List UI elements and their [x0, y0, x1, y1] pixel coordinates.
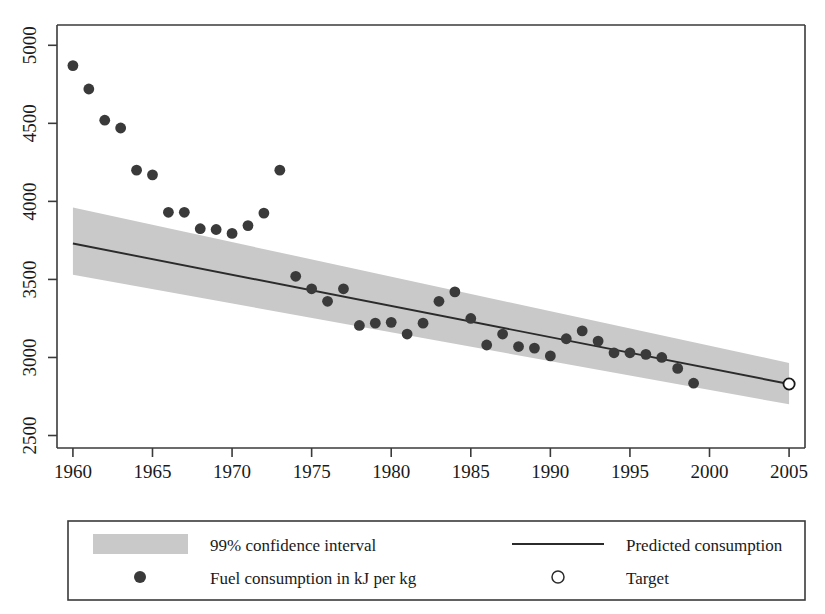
x-tick-label: 2005: [770, 461, 808, 482]
x-tick-label: 1960: [54, 461, 92, 482]
x-tick-label: 1975: [293, 461, 331, 482]
data-point: [481, 340, 492, 351]
data-point: [115, 123, 126, 134]
data-point: [338, 283, 349, 294]
data-point: [402, 329, 413, 340]
x-tick-label: 1970: [213, 461, 251, 482]
data-point: [640, 349, 651, 360]
data-point: [625, 347, 636, 358]
data-point: [386, 317, 397, 328]
data-point: [179, 207, 190, 218]
data-point: [418, 318, 429, 329]
x-tick-label: 1990: [531, 461, 569, 482]
target-marker: [783, 378, 794, 389]
data-point: [497, 329, 508, 340]
data-point: [577, 326, 588, 337]
x-tick-label: 2000: [691, 461, 729, 482]
data-point: [243, 220, 254, 231]
y-tick-label: 3000: [20, 338, 41, 376]
data-point: [354, 320, 365, 331]
data-point: [147, 169, 158, 180]
data-point: [370, 318, 381, 329]
data-point: [211, 224, 222, 235]
data-point: [99, 115, 110, 126]
legend-label-target: Target: [626, 569, 669, 588]
data-point: [449, 287, 460, 298]
data-point: [656, 352, 667, 363]
legend-label-fuel-consumption: Fuel consumption in kJ per kg: [210, 569, 417, 588]
y-tick-label: 4500: [20, 104, 41, 142]
data-point: [131, 165, 142, 176]
data-point: [465, 313, 476, 324]
x-tick-label: 1985: [452, 461, 490, 482]
data-point: [434, 296, 445, 307]
y-tick-label: 4000: [20, 182, 41, 220]
data-point: [274, 165, 285, 176]
chart-legend: 99% confidence interval Predicted consum…: [68, 521, 805, 600]
data-point: [593, 336, 604, 347]
y-tick-label: 5000: [20, 26, 41, 64]
data-point: [529, 343, 540, 354]
legend-border: [68, 521, 805, 600]
data-point: [513, 341, 524, 352]
data-point: [306, 283, 317, 294]
x-tick-label: 1980: [372, 461, 410, 482]
data-point: [258, 208, 269, 219]
data-point: [83, 84, 94, 95]
x-tick-label: 1965: [133, 461, 171, 482]
target-point: [783, 378, 794, 389]
data-point: [561, 333, 572, 344]
data-point: [688, 378, 699, 389]
data-point: [672, 363, 683, 374]
legend-label-confidence-interval: 99% confidence interval: [210, 536, 376, 555]
data-point: [609, 347, 620, 358]
data-point: [195, 223, 206, 234]
legend-label-predicted-consumption: Predicted consumption: [626, 536, 783, 555]
data-point: [227, 228, 238, 239]
band-swatch: [93, 534, 188, 554]
fuel-consumption-chart: 250030003500400045005000 196019651970197…: [0, 0, 825, 614]
y-tick-label: 2500: [20, 417, 41, 455]
data-point: [290, 271, 301, 282]
data-point: [545, 351, 556, 362]
dot-swatch: [134, 571, 146, 583]
y-tick-label: 3500: [20, 260, 41, 298]
data-point: [163, 207, 174, 218]
x-tick-label: 1995: [611, 461, 649, 482]
open-dot-swatch: [552, 571, 564, 583]
data-point: [68, 60, 79, 71]
data-point: [322, 296, 333, 307]
chart-canvas: 250030003500400045005000 196019651970197…: [0, 0, 825, 614]
